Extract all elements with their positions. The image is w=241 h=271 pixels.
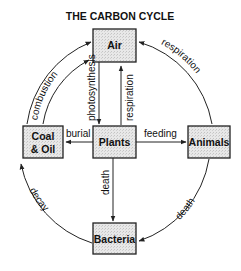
label-feeding: feeding [144, 128, 177, 139]
node-air-label: Air [107, 39, 122, 51]
node-plants-label: Plants [99, 136, 131, 148]
arc-animal-death [139, 159, 209, 241]
node-coal-oil: Coal & Oil [23, 126, 63, 158]
node-bacteria: Bacteria [93, 223, 136, 254]
node-animals: Animals [188, 126, 230, 158]
label-animal-death: death [173, 196, 197, 222]
arc-combustion [43, 60, 89, 124]
node-bacteria-label: Bacteria [94, 233, 136, 245]
carbon-cycle-diagram: THE CARBON CYCLE Air Plants Coal & Oil A… [0, 0, 241, 271]
arc-decay [21, 164, 92, 243]
label-burial: burial [66, 128, 90, 139]
label-decay: decay [28, 186, 52, 214]
label-photosynthesis: photosynthesis [86, 54, 97, 121]
label-animal-respiration: respiration [160, 36, 204, 75]
label-plant-death: death [100, 170, 111, 195]
label-plant-respiration: respiration [124, 74, 135, 121]
diagram-title: THE CARBON CYCLE [66, 10, 175, 22]
node-plants: Plants [93, 126, 136, 158]
node-coal-oil-label-1: Coal [32, 130, 55, 142]
node-animals-label: Animals [189, 136, 230, 148]
label-combustion: combustion [28, 69, 59, 121]
node-coal-oil-label-2: & Oil [31, 143, 56, 155]
node-air: Air [93, 29, 136, 62]
